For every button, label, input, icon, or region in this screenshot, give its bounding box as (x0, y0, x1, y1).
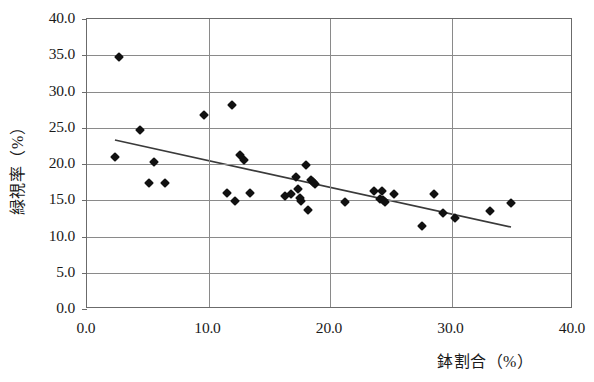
gridline-horizontal (87, 92, 571, 93)
x-tick-label: 0.0 (46, 320, 126, 336)
y-tick-mark (82, 128, 87, 129)
y-tick-mark (82, 309, 87, 310)
y-tick-label: 0.0 (0, 300, 75, 316)
x-tick-label: 40.0 (532, 320, 594, 336)
gridline-horizontal (87, 273, 571, 274)
plot-area (86, 18, 572, 308)
gridline-horizontal (87, 200, 571, 201)
y-tick-label: 30.0 (0, 83, 75, 99)
x-tick-label: 20.0 (289, 320, 369, 336)
gridline-vertical (452, 19, 453, 307)
x-tick-label: 30.0 (411, 320, 491, 336)
gridline-vertical (330, 19, 331, 307)
y-tick-label: 15.0 (0, 191, 75, 207)
y-tick-mark (82, 92, 87, 93)
y-tick-label: 5.0 (0, 264, 75, 280)
y-tick-label: 25.0 (0, 119, 75, 135)
gridline-horizontal (87, 55, 571, 56)
gridline-vertical (209, 19, 210, 307)
y-tick-mark (82, 273, 87, 274)
y-tick-mark (82, 164, 87, 165)
y-tick-label: 40.0 (0, 10, 75, 26)
y-tick-label: 10.0 (0, 228, 75, 244)
y-tick-mark (82, 19, 87, 20)
y-tick-label: 35.0 (0, 46, 75, 62)
y-tick-mark (82, 55, 87, 56)
y-tick-mark (82, 200, 87, 201)
x-tick-label: 10.0 (168, 320, 248, 336)
gridline-horizontal (87, 164, 571, 165)
gridline-horizontal (87, 128, 571, 129)
y-tick-mark (82, 237, 87, 238)
x-axis-label: 鉢割合（%） (437, 348, 533, 372)
scatter-chart: 緑視率（%） 鉢割合（%） 0.05.010.015.020.025.030.0… (0, 0, 594, 382)
gridline-horizontal (87, 237, 571, 238)
y-tick-label: 20.0 (0, 155, 75, 171)
